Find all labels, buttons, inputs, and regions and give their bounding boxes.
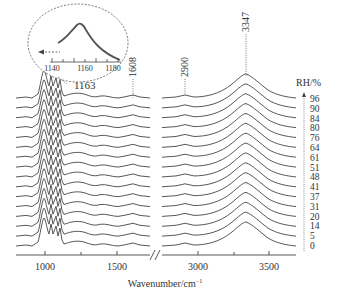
tick-label-1000: 1000 bbox=[35, 261, 55, 272]
tick-label-1500: 1500 bbox=[107, 261, 127, 272]
legend-rh-80: 80 bbox=[310, 123, 320, 133]
x-axis-label: Wavenumber/cm−1 bbox=[128, 278, 202, 289]
legend-rh-labels: 969084807664615148413731201450 bbox=[310, 94, 320, 251]
legend-rh-0: 0 bbox=[310, 241, 315, 251]
legend-rh-51: 51 bbox=[310, 163, 320, 173]
legend-rh-48: 48 bbox=[310, 172, 320, 182]
peak-label-2900: 2900 bbox=[179, 57, 190, 77]
legend-title: RH/% bbox=[296, 77, 321, 88]
tick-label-3000: 3000 bbox=[188, 261, 208, 272]
x-axis bbox=[16, 251, 296, 255]
ftir-spectra-chart: 1000 1500 3000 3500 Wavenumber/cm−1 1608… bbox=[0, 0, 337, 302]
legend-rh-90: 90 bbox=[310, 104, 320, 114]
spectra-lines bbox=[16, 70, 296, 246]
legend-rh-5: 5 bbox=[310, 231, 315, 241]
legend-rh-14: 14 bbox=[310, 221, 320, 231]
legend-rh-37: 37 bbox=[310, 192, 320, 202]
peak-label-1608: 1608 bbox=[127, 57, 138, 77]
inset-tick-1140: 1140 bbox=[44, 64, 60, 73]
legend-rh-20: 20 bbox=[310, 212, 320, 222]
inset-tick-1180: 1180 bbox=[105, 64, 121, 73]
axis-break-icon bbox=[150, 250, 160, 260]
legend-rh-41: 41 bbox=[310, 182, 320, 192]
legend-rh-76: 76 bbox=[310, 133, 320, 143]
legend-rh-61: 61 bbox=[310, 153, 320, 163]
rh-arrow bbox=[302, 92, 306, 251]
tick-label-3500: 3500 bbox=[259, 261, 279, 272]
peak-label-3347: 3347 bbox=[240, 12, 251, 32]
legend-rh-84: 84 bbox=[310, 114, 320, 124]
legend-rh-64: 64 bbox=[310, 143, 320, 153]
legend-rh-96: 96 bbox=[310, 94, 320, 104]
inset-tick-1160: 1160 bbox=[77, 64, 93, 73]
legend-rh-31: 31 bbox=[310, 202, 320, 212]
